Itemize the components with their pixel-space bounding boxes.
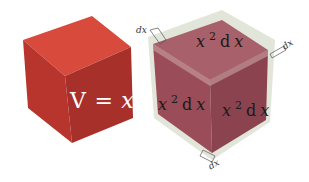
svg-text:dx: dx: [136, 25, 147, 35]
volume-diagram: V = x 3 x 2 d x x 2 d x x 2 d: [0, 0, 309, 182]
shell-cube: x 2 d x x 2 d x x 2 d x: [148, 10, 275, 160]
volume-label: V = x 3: [69, 85, 148, 113]
svg-text:dx: dx: [280, 37, 295, 51]
svg-text:dx: dx: [207, 157, 221, 171]
solid-cube: V = x 3: [23, 16, 148, 143]
